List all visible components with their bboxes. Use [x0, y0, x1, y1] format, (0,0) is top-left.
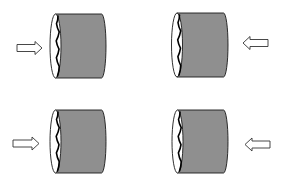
panel-bottom-left	[13, 110, 106, 173]
arrow-left-icon	[245, 138, 270, 151]
panel-bottom-right	[172, 110, 270, 173]
arrow-right-icon	[13, 137, 39, 150]
cylinder-body	[56, 14, 107, 78]
arrow-right-icon	[17, 42, 42, 55]
arrow-left-icon	[243, 37, 268, 50]
cylinder-body	[177, 13, 228, 77]
panel-top-left	[17, 14, 106, 78]
cylinder-arrow-diagram	[0, 0, 285, 182]
panel-top-right	[172, 13, 269, 77]
cylinder-body	[178, 110, 229, 173]
cylinder-body	[56, 110, 107, 173]
diagram-canvas	[0, 0, 285, 182]
